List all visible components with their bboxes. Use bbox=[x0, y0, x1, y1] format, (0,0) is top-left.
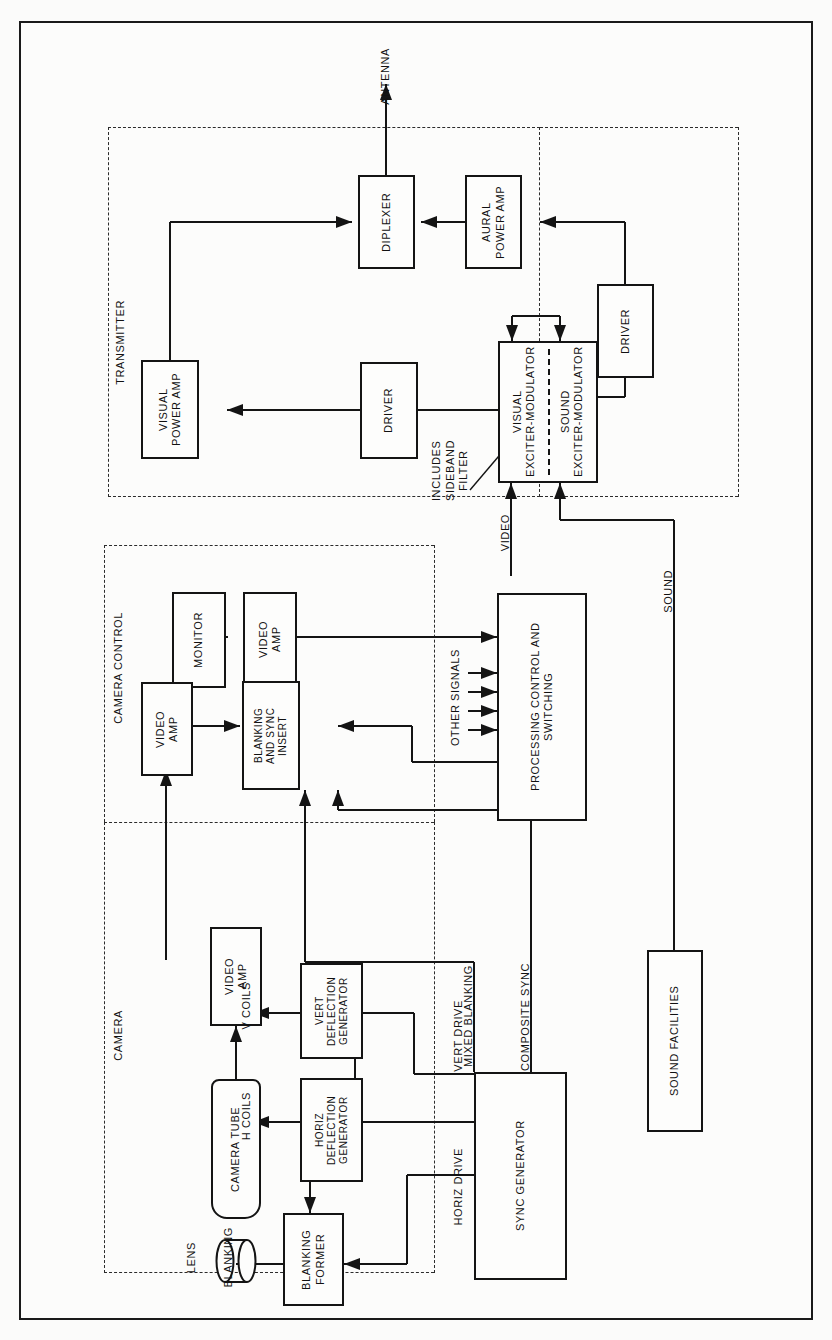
block-driver-aural[interactable]: DRIVER bbox=[597, 284, 654, 378]
block-label: DRIVER bbox=[599, 286, 652, 376]
block-sound-facilities[interactable]: SOUND FACILITIES bbox=[647, 950, 703, 1132]
block-video-amp-control[interactable]: VIDEO AMP bbox=[141, 682, 193, 776]
block-vert-deflection-generator[interactable]: VERT DEFLECTION GENERATOR bbox=[300, 963, 363, 1059]
block-label: VIDEO AMP bbox=[245, 594, 295, 685]
label-antenna: ANTENNA bbox=[379, 48, 393, 105]
block-label: BLANKING FORMER bbox=[285, 1215, 342, 1304]
lens-shape bbox=[214, 1237, 258, 1285]
connection-lines bbox=[0, 0, 832, 1340]
block-horiz-deflection-generator[interactable]: HORIZ DEFLECTION GENERATOR bbox=[300, 1078, 363, 1182]
block-aural-power-amp[interactable]: AURAL POWER AMP bbox=[465, 175, 522, 269]
block-label: VERT DEFLECTION GENERATOR bbox=[302, 965, 361, 1057]
block-blanking-former[interactable]: BLANKING FORMER bbox=[283, 1213, 344, 1306]
block-label: SYNC GENERATOR bbox=[476, 1074, 565, 1278]
label-composite-sync: COMPOSITE SYNC bbox=[519, 963, 533, 1071]
block-monitor[interactable]: MONITOR bbox=[172, 592, 226, 688]
block-label: SOUND FACILITIES bbox=[649, 952, 701, 1130]
block-label: BLANKING AND SYNC INSERT bbox=[244, 683, 298, 788]
exciter-modulator-divider bbox=[548, 349, 550, 475]
block-visual-power-amp[interactable]: VISUAL POWER AMP bbox=[141, 360, 199, 459]
label-includes-sideband-filter: INCLUDES SIDEBAND FILTER bbox=[430, 440, 471, 501]
label-v-coils: V COILS bbox=[240, 982, 254, 1030]
block-label: DIPLEXER bbox=[360, 177, 413, 267]
label-blanking: BLANKING bbox=[222, 1227, 236, 1287]
block-label: VISUAL POWER AMP bbox=[143, 362, 197, 457]
block-label: DRIVER bbox=[362, 364, 416, 457]
block-label: HORIZ DEFLECTION GENERATOR bbox=[302, 1080, 361, 1180]
block-exciter-modulator[interactable]: VISUAL EXCITER-MODULATOR SOUND EXCITER-M… bbox=[498, 341, 598, 483]
label-video: VIDEO bbox=[499, 514, 513, 551]
block-video-amp-monitor[interactable]: VIDEO AMP bbox=[243, 592, 297, 687]
block-processing-control-switching[interactable]: PROCESSING CONTROL AND SWITCHING bbox=[497, 593, 587, 821]
block-diplexer[interactable]: DIPLEXER bbox=[358, 175, 415, 269]
block-label-visual-exciter-modulator: VISUAL EXCITER-MODULATOR bbox=[500, 343, 548, 481]
label-h-coils: H COILS bbox=[240, 1092, 254, 1140]
diagram-page: TRANSMITTER CAMERA CONTROL CAMERA bbox=[0, 0, 832, 1340]
block-video-amp-camera[interactable]: VIDEO AMP bbox=[210, 927, 262, 1026]
label-other-signals: OTHER SIGNALS bbox=[449, 649, 463, 746]
block-camera-tube[interactable]: CAMERA TUBE bbox=[211, 1079, 261, 1219]
block-blanking-and-sync-insert[interactable]: BLANKING AND SYNC INSERT bbox=[242, 681, 300, 790]
label-sound: SOUND bbox=[662, 570, 676, 613]
block-sync-generator[interactable]: SYNC GENERATOR bbox=[474, 1072, 567, 1280]
label-horiz-drive: HORIZ DRIVE bbox=[452, 1148, 466, 1226]
block-label-sound-exciter-modulator: SOUND EXCITER-MODULATOR bbox=[548, 343, 596, 481]
block-label: VIDEO AMP bbox=[143, 684, 191, 774]
lens-label: LENS bbox=[185, 1242, 199, 1273]
block-label: AURAL POWER AMP bbox=[467, 177, 520, 267]
label-vert-drive: VERT DRIVE bbox=[452, 1000, 466, 1072]
block-label: MONITOR bbox=[174, 594, 224, 686]
block-label: PROCESSING CONTROL AND SWITCHING bbox=[499, 595, 585, 819]
block-driver-visual[interactable]: DRIVER bbox=[360, 362, 418, 459]
